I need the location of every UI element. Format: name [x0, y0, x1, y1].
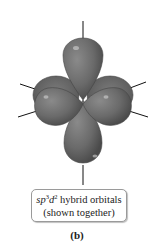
caption-line-1: sp3d2 hybrid orbitals	[32, 193, 126, 206]
orbital-figure: sp3d2 hybrid orbitals (shown together) (…	[0, 0, 154, 249]
axis-lower-left	[18, 111, 37, 117]
axis-lower-right	[129, 111, 148, 117]
highlight	[93, 155, 98, 158]
orbital-diagram	[0, 0, 154, 190]
caption-sp: sp	[36, 194, 45, 205]
caption-box: sp3d2 hybrid orbitals (shown together)	[31, 189, 127, 222]
caption-line1-rest: hybrid orbitals	[57, 194, 121, 205]
axis-upper-right	[130, 82, 146, 88]
highlight	[104, 95, 109, 99]
highlight	[73, 46, 79, 50]
panel-label: (b)	[0, 229, 154, 241]
caption-line-2: (shown together)	[32, 206, 126, 219]
highlight	[44, 95, 49, 99]
